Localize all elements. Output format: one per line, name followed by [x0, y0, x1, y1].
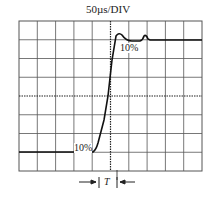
lower-10-percent-label: 10% [74, 143, 92, 153]
oscilloscope-graticule [0, 0, 216, 198]
period-marker-label: T [104, 177, 110, 187]
upper-10-percent-label: 10% [120, 43, 138, 53]
